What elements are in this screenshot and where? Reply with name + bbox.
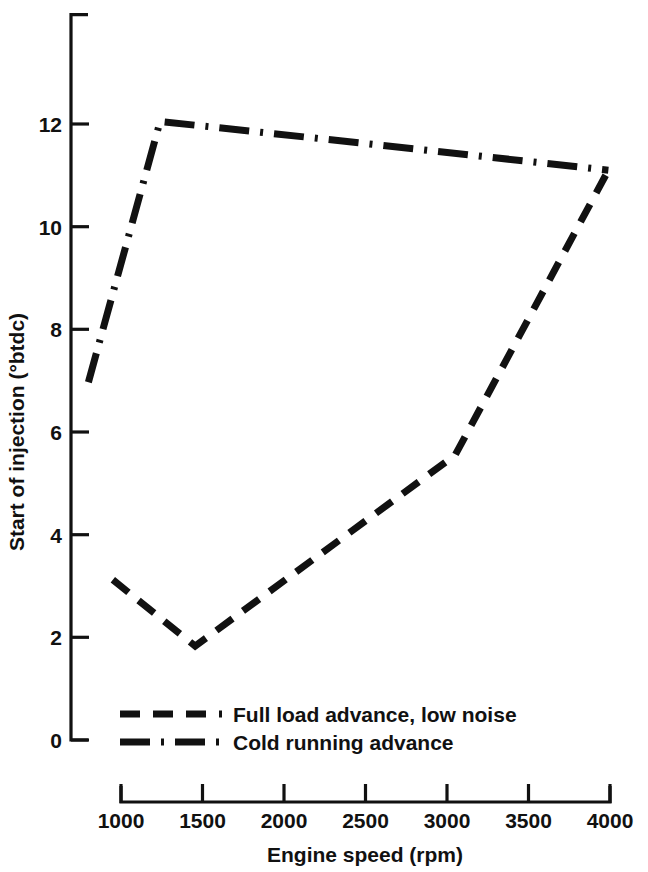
x-axis: 1000 1500 2000 2500 3000 3500 4000 Engin… [98, 784, 634, 866]
legend-label-full-load: Full load advance, low noise [233, 703, 517, 726]
y-tick-label-10: 10 [39, 216, 62, 239]
x-tick-label-1500: 1500 [179, 809, 226, 832]
y-axis-ticks [71, 124, 89, 740]
x-tick-label-1000: 1000 [98, 809, 145, 832]
y-tick-label-12: 12 [39, 113, 62, 136]
y-axis-title: Start of injection (°btdc) [5, 313, 28, 551]
x-axis-ticks [121, 784, 610, 803]
x-tick-label-3000: 3000 [424, 809, 471, 832]
series-group [88, 121, 608, 646]
y-tick-label-2: 2 [50, 626, 62, 649]
y-tick-label-4: 4 [50, 524, 62, 547]
x-tick-label-3500: 3500 [505, 809, 552, 832]
legend: Full load advance, low noise Cold runnin… [120, 703, 517, 754]
y-axis-tick-labels: 0 2 4 6 8 10 12 [39, 113, 63, 752]
line-chart: 0 2 4 6 8 10 12 Start of injection (°btd… [0, 0, 648, 872]
x-tick-label-4000: 4000 [587, 809, 634, 832]
x-tick-label-2000: 2000 [261, 809, 308, 832]
x-tick-label-2500: 2500 [342, 809, 389, 832]
y-tick-label-8: 8 [50, 318, 62, 341]
legend-label-cold-running: Cold running advance [233, 731, 454, 754]
y-axis: 0 2 4 6 8 10 12 Start of injection (°btd… [5, 15, 89, 752]
series-full-load-advance [113, 170, 609, 646]
y-tick-label-0: 0 [50, 729, 62, 752]
x-axis-title: Engine speed (rpm) [267, 843, 463, 866]
chart-figure: 0 2 4 6 8 10 12 Start of injection (°btd… [0, 0, 648, 872]
y-tick-label-6: 6 [50, 421, 62, 444]
x-axis-tick-labels: 1000 1500 2000 2500 3000 3500 4000 [98, 809, 634, 832]
series-cold-running-advance [88, 121, 608, 382]
legend-item-full-load: Full load advance, low noise [120, 703, 517, 726]
legend-item-cold-running: Cold running advance [120, 731, 454, 754]
